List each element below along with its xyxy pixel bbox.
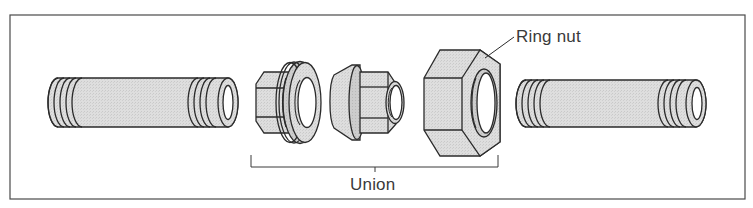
right-pipe: [516, 80, 706, 127]
union-tailpiece: [256, 62, 321, 144]
union-bracket: [251, 155, 498, 172]
ring-nut-label: Ring nut: [516, 27, 581, 47]
union-diagram: Ring nut Union: [0, 0, 753, 208]
union-label: Union: [350, 175, 395, 195]
ring-nut: [424, 50, 500, 156]
left-pipe: [48, 78, 238, 127]
union-seat: [330, 65, 404, 140]
ring-nut-leader-line: [485, 37, 514, 58]
